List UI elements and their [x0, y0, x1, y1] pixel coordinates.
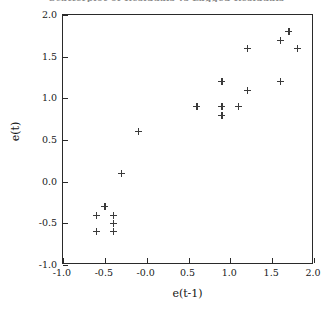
y-axis-tick-label: 0.5 [42, 134, 57, 145]
data-point-marker [244, 87, 251, 94]
y-axis-tick-label: -1.0 [39, 259, 57, 270]
data-point-marker [135, 128, 142, 135]
data-point-marker [218, 112, 225, 119]
y-axis-tick-label: 0.0 [42, 175, 57, 186]
data-point-marker [110, 212, 117, 219]
y-axis-tick-label: 2.0 [42, 9, 57, 20]
data-point-marker [218, 78, 225, 85]
x-axis-tick-label: 1.5 [264, 267, 279, 278]
data-point-marker [244, 45, 251, 52]
x-axis-tick [105, 258, 106, 263]
y-axis-tick-label: 1.5 [42, 50, 57, 61]
y-axis-tick [63, 265, 68, 266]
data-point-marker [294, 45, 301, 52]
x-axis-tick-label: -0.0 [136, 267, 154, 278]
data-point-marker [277, 37, 284, 44]
y-axis-tick-label: 1.0 [42, 92, 57, 103]
plot-frame [62, 14, 313, 264]
y-axis-tick [63, 223, 68, 224]
x-axis-title: e(t-1) [62, 287, 313, 300]
data-point-marker [110, 228, 117, 235]
y-axis-tick-label: -0.5 [39, 217, 57, 228]
x-axis-tick [63, 258, 64, 263]
y-axis-tick [63, 15, 68, 16]
x-axis-tick-label: -0.5 [95, 267, 113, 278]
data-point-marker [110, 220, 117, 227]
y-axis-tick [63, 182, 68, 183]
data-point-marker [93, 212, 100, 219]
x-axis-tick [272, 258, 273, 263]
plot-surface [63, 15, 312, 263]
x-axis-tick [189, 258, 190, 263]
data-point-marker [235, 103, 242, 110]
y-axis-tick [63, 57, 68, 58]
y-axis-title: e(t) [9, 102, 22, 162]
x-axis-tick-label: 0.5 [180, 267, 195, 278]
data-point-marker [277, 78, 284, 85]
y-axis-tick [63, 98, 68, 99]
x-axis-tick-label: 2.0 [305, 267, 320, 278]
x-axis-tick [230, 258, 231, 263]
data-point-marker [218, 103, 225, 110]
x-axis-tick-label: 1.0 [222, 267, 237, 278]
scatter-plot-figure: Scatterplot of Residuals vs Lagged Resid… [0, 0, 333, 309]
data-point-marker [193, 103, 200, 110]
data-point-marker [93, 228, 100, 235]
data-point-marker [118, 170, 125, 177]
y-axis-tick [63, 140, 68, 141]
data-point-marker [101, 203, 108, 210]
x-axis-tick [314, 258, 315, 263]
chart-title: Scatterplot of Residuals vs Lagged Resid… [0, 0, 333, 2]
x-axis-tick [147, 258, 148, 263]
data-point-marker [285, 28, 292, 35]
